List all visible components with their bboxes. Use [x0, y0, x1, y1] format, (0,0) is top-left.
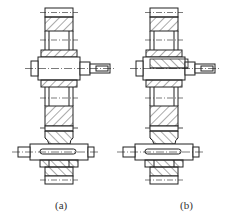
- panel-b-label: (b): [180, 199, 193, 211]
- gear-assembly-drawings: [0, 0, 249, 219]
- panel-a-drawing: [12, 8, 114, 184]
- panel-b-drawing: [117, 8, 219, 184]
- panel-a-label: (a): [55, 199, 67, 211]
